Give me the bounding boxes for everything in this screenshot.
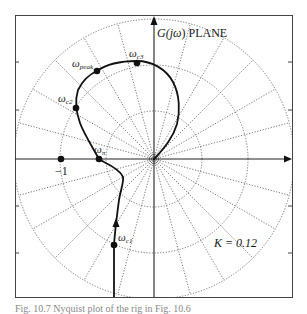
label-omega-pi-sub: π	[102, 149, 106, 157]
label-omega-c2-sub: c2	[66, 98, 73, 106]
label-omega-pi-main: ω	[94, 143, 102, 155]
label-omega-peak-sub: peak	[80, 63, 93, 71]
label-omega-c2: ωc2	[58, 93, 72, 106]
title-omega: ω	[173, 26, 181, 40]
plane-title: G(jω) PLANE	[157, 27, 227, 39]
label-omega-pi: ωπ	[94, 144, 105, 157]
gain-label: K = 0.12	[214, 237, 257, 249]
title-g: G(	[157, 26, 170, 40]
label-omega-c3-main: ω	[129, 47, 137, 59]
label-minus-one: −1	[55, 165, 68, 177]
point-omega-peak	[94, 68, 101, 75]
point-minus-one	[58, 156, 65, 163]
label-omega-c3: ωc3	[129, 48, 143, 61]
label-omega-c1-sub: c1	[126, 237, 133, 245]
grid-spoke	[118, 24, 153, 153]
label-omega-peak-main: ω	[72, 57, 80, 69]
real-axis-arrow-icon	[284, 156, 292, 163]
grid-spoke	[157, 38, 224, 154]
title-suffix: ) PLANE	[182, 26, 228, 40]
grid-spoke	[156, 165, 191, 294]
gain-label-text: K = 0.12	[214, 236, 257, 250]
grid-spoke	[55, 163, 150, 258]
grid-spoke	[19, 161, 148, 196]
grid-spoke	[160, 123, 289, 158]
imag-axis-arrow-icon	[151, 16, 158, 25]
grid-spoke	[160, 161, 289, 196]
label-omega-peak: ωpeak	[72, 58, 93, 71]
grid-spoke	[33, 162, 149, 229]
label-minus-one-text: −1	[55, 164, 68, 178]
grid-spoke	[157, 164, 224, 280]
grid-spoke	[55, 60, 150, 155]
grid-spoke	[159, 162, 275, 229]
label-omega-c1-main: ω	[118, 231, 126, 243]
label-omega-c2-main: ω	[58, 92, 66, 104]
grid-spoke	[158, 60, 253, 155]
label-omega-c1: ωc1	[118, 232, 132, 245]
grid-spoke	[19, 123, 148, 158]
point-omega-c2	[73, 105, 80, 112]
label-omega-c3-sub: c3	[137, 53, 144, 61]
figure-caption: Fig. 10.7 Nyquist plot of the rig in Fig…	[15, 303, 191, 314]
axes	[15, 21, 287, 297]
curve-direction-arrow-icon	[113, 218, 120, 227]
point-omega-c1	[111, 242, 118, 249]
